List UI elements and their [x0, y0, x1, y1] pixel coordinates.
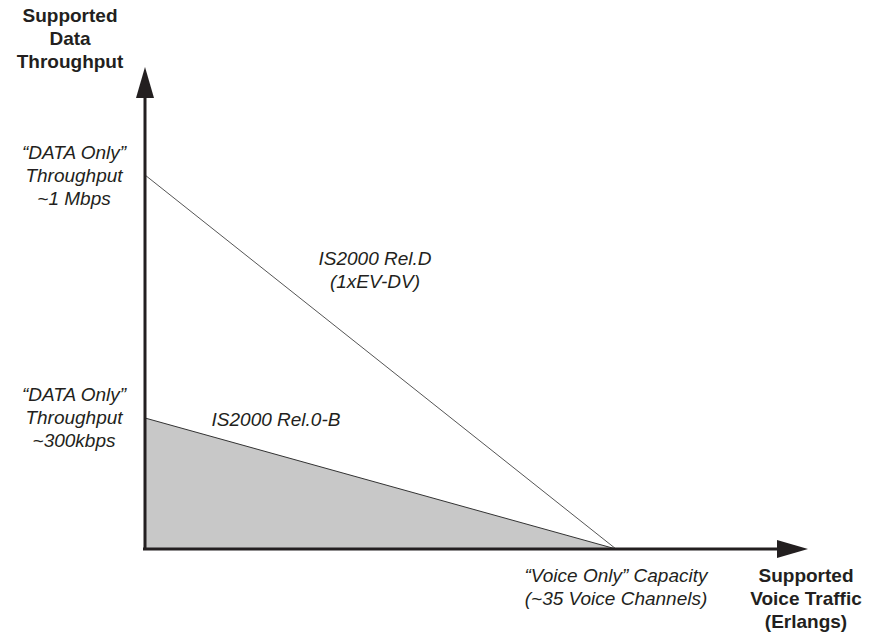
data-only-low-label: “DATA Only” Throughput ~300kbps	[12, 383, 136, 452]
label-line: (1xEV-DV)	[290, 270, 460, 293]
capacity-tradeoff-diagram	[0, 0, 879, 643]
x-axis-arrow-icon	[777, 540, 808, 558]
y-axis-title: Supported Data Throughput	[10, 4, 130, 73]
label-line: “Voice Only” Capacity	[516, 564, 716, 587]
x-title-line: Voice Traffic	[738, 587, 874, 610]
y-title-line: Data	[10, 27, 130, 50]
x-title-line: (Erlangs)	[738, 610, 874, 633]
y-title-line: Throughput	[10, 50, 130, 73]
label-line: ~1 Mbps	[12, 187, 136, 210]
label-line: ~300kbps	[12, 429, 136, 452]
label-line: Throughput	[12, 406, 136, 429]
y-title-line: Supported	[10, 4, 130, 27]
x-axis-title: Supported Voice Traffic (Erlangs)	[738, 564, 874, 633]
y-axis-arrow-icon	[136, 67, 154, 98]
label-line: IS2000 Rel.D	[290, 247, 460, 270]
voice-only-label: “Voice Only” Capacity (~35 Voice Channel…	[516, 564, 716, 610]
label-line: “DATA Only”	[12, 383, 136, 406]
label-line: “DATA Only”	[12, 141, 136, 164]
data-only-high-label: “DATA Only” Throughput ~1 Mbps	[12, 141, 136, 210]
label-line: Throughput	[12, 164, 136, 187]
rel-0b-label: IS2000 Rel.0-B	[196, 408, 356, 431]
label-line: (~35 Voice Channels)	[516, 587, 716, 610]
rel-0b-region	[145, 418, 616, 549]
x-title-line: Supported	[738, 564, 874, 587]
rel-d-label: IS2000 Rel.D (1xEV-DV)	[290, 247, 460, 293]
